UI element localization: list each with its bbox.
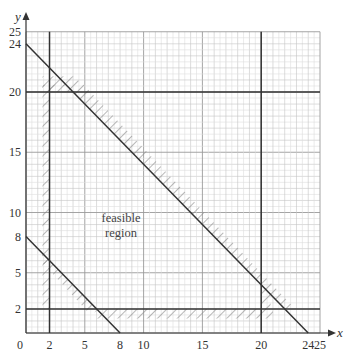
y-tick-15: 15: [9, 145, 21, 159]
x-tick-15: 15: [196, 338, 208, 352]
y-tick-2: 2: [15, 302, 21, 316]
origin-label: 0: [17, 338, 23, 352]
x-tick-5: 5: [82, 338, 88, 352]
y-tick-10: 10: [9, 206, 21, 220]
region-label-line2: region: [105, 226, 138, 240]
y-tick-25: 25: [9, 25, 21, 39]
y-axis-label: y: [13, 9, 21, 24]
x-axis-label: x: [336, 325, 343, 340]
region-label-line1: feasible: [102, 211, 141, 225]
x-tick-10: 10: [138, 338, 150, 352]
y-tick-8: 8: [15, 230, 21, 244]
y-tick-20: 20: [9, 85, 21, 99]
y-tick-24: 24: [9, 37, 21, 51]
x-tick-25: 25: [314, 338, 326, 352]
x-tick-20: 20: [255, 338, 267, 352]
x-tick-24: 24: [302, 338, 314, 352]
x-tick-8: 8: [117, 338, 123, 352]
y-tick-5: 5: [15, 266, 21, 280]
hatched-infeasible-regions: [42, 76, 295, 318]
linear-programming-chart: 25810152024252581015202425 feasible regi…: [0, 0, 349, 358]
x-tick-2: 2: [47, 338, 53, 352]
